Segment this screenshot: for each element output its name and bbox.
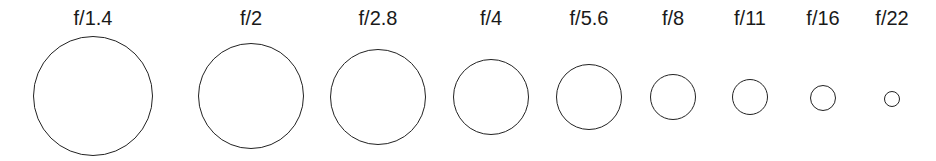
aperture-diagram: f/1.4 f/2 f/2.8 f/4 f/5.6 f/8 f/11 f/16 …	[0, 0, 936, 161]
stop-label: f/22	[875, 6, 908, 30]
stop-label: f/1.4	[74, 6, 113, 30]
stop-label: f/16	[806, 6, 839, 30]
stop-label: f/8	[662, 6, 684, 30]
aperture-circle-icon	[556, 64, 622, 130]
aperture-circle-icon	[33, 36, 153, 156]
stop-label: f/11	[734, 6, 766, 30]
aperture-circle-icon	[330, 49, 426, 145]
stop-label: f/2	[240, 6, 262, 30]
aperture-circle-icon	[732, 79, 768, 115]
stop-label: f/2.8	[359, 6, 398, 30]
stop-label: f/4	[480, 6, 502, 30]
stop-label: f/5.6	[570, 6, 609, 30]
aperture-circle-icon	[810, 85, 836, 111]
aperture-circle-icon	[884, 91, 900, 107]
aperture-circle-icon	[453, 59, 529, 135]
aperture-circle-icon	[198, 43, 304, 149]
aperture-circle-icon	[650, 74, 696, 120]
